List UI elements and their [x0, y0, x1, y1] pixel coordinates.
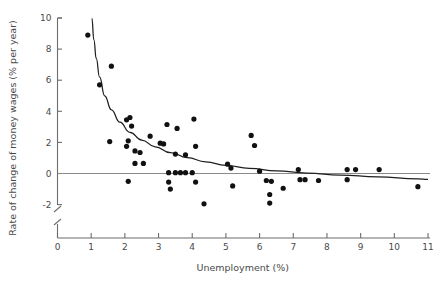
data-point: [97, 82, 102, 87]
data-point: [415, 184, 420, 189]
data-point: [168, 186, 173, 191]
data-point: [377, 167, 382, 172]
data-point: [127, 115, 132, 120]
data-point: [264, 178, 269, 183]
data-point: [193, 179, 198, 184]
data-point: [124, 144, 129, 149]
data-point: [109, 64, 114, 69]
data-point: [296, 167, 301, 172]
data-point: [249, 133, 254, 138]
data-point: [166, 179, 171, 184]
y-tick-label: 8: [46, 44, 52, 54]
data-point: [137, 150, 142, 155]
x-tick-label: 5: [223, 242, 229, 252]
data-point: [193, 144, 198, 149]
data-point: [183, 170, 188, 175]
data-point: [126, 179, 131, 184]
data-point: [126, 138, 131, 143]
data-point: [267, 200, 272, 205]
data-point: [178, 170, 183, 175]
x-axis-title: Unemployment (%): [197, 262, 289, 273]
data-point: [191, 116, 196, 121]
y-tick-label: -2: [43, 200, 52, 210]
data-point: [269, 179, 274, 184]
data-point: [257, 169, 262, 174]
x-tick-label: 7: [290, 242, 296, 252]
data-point: [230, 183, 235, 188]
data-point: [281, 186, 286, 191]
data-point: [345, 167, 350, 172]
data-point: [252, 143, 257, 148]
y-tick-label: 6: [46, 75, 52, 85]
y-tick-label: 2: [46, 138, 52, 148]
x-tick-label: 8: [324, 242, 330, 252]
data-point: [173, 170, 178, 175]
y-tick-label: 4: [46, 107, 52, 117]
x-tick-label: 0: [55, 242, 61, 252]
data-point: [345, 177, 350, 182]
data-point: [161, 141, 166, 146]
y-tick-label: 0: [46, 169, 52, 179]
chart-canvas: 1086420-201234567891011Unemployment (%)R…: [0, 0, 442, 281]
data-point: [316, 178, 321, 183]
data-point: [174, 126, 179, 131]
fitted-curve: [92, 18, 428, 179]
x-tick-label: 11: [422, 242, 433, 252]
data-point: [166, 170, 171, 175]
x-tick-label: 4: [189, 242, 195, 252]
data-point: [267, 192, 272, 197]
data-point: [183, 152, 188, 157]
data-point: [353, 167, 358, 172]
data-point: [228, 165, 233, 170]
x-tick-label: 1: [88, 242, 94, 252]
y-tick-label: 10: [40, 13, 52, 23]
y-axis-break-mark: [54, 206, 61, 212]
x-tick-label: 9: [358, 242, 364, 252]
data-point: [129, 123, 134, 128]
x-tick-label: 6: [257, 242, 263, 252]
data-point: [107, 139, 112, 144]
data-point: [297, 177, 302, 182]
data-point: [132, 161, 137, 166]
x-tick-label: 3: [156, 242, 162, 252]
y-axis-title: Rate of change of money wages (% per yea…: [7, 20, 18, 236]
data-point: [148, 134, 153, 139]
x-tick-label: 2: [122, 242, 128, 252]
x-tick-label: 10: [389, 242, 401, 252]
data-point: [141, 161, 146, 166]
phillips-curve-chart: 1086420-201234567891011Unemployment (%)R…: [0, 0, 442, 281]
data-point: [164, 122, 169, 127]
data-point: [302, 177, 307, 182]
data-point: [85, 33, 90, 38]
data-point: [173, 151, 178, 156]
data-point: [190, 170, 195, 175]
data-point: [132, 148, 137, 153]
data-point: [201, 201, 206, 206]
